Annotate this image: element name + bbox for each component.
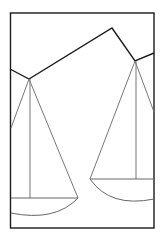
right-pan-group (90, 61, 154, 201)
left-pan-group (11, 79, 78, 215)
scale-beam (10, 28, 154, 79)
left-pan-bowl (11, 198, 78, 215)
frame-border (11, 13, 155, 228)
left-pan-string-outer (11, 79, 29, 128)
left-pan-string-inner (29, 79, 78, 198)
balance-scale-diagram (0, 0, 162, 237)
right-pan-string-outer (135, 61, 154, 112)
right-pan-string-inner (90, 61, 135, 179)
right-pan-bowl (90, 179, 154, 201)
